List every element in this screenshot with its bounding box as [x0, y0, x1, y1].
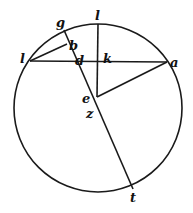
label-a: a — [170, 55, 178, 70]
label-top: l — [95, 8, 100, 23]
chord-l-a — [30, 61, 167, 62]
line-group — [30, 24, 167, 189]
label-left: l — [20, 51, 25, 66]
label-g: g — [56, 15, 65, 30]
geometry-diagram: lgbldkaezt — [0, 0, 193, 213]
label-d: d — [75, 53, 84, 68]
label-e: e — [82, 91, 90, 106]
label-b: b — [69, 38, 78, 53]
label-group: lgbldkaezt — [20, 8, 178, 205]
label-z: z — [85, 106, 94, 121]
label-t: t — [130, 190, 136, 205]
vertical-top-e — [97, 24, 98, 97]
label-k: k — [103, 51, 112, 66]
line-a-e — [97, 62, 167, 97]
